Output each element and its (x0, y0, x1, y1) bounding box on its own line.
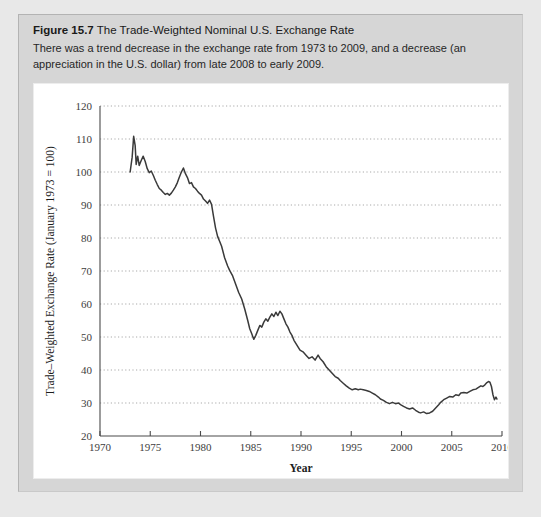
x-tick-1980: 1980 (190, 441, 213, 453)
y-tick-70: 70 (81, 265, 93, 277)
y-tick-110: 110 (76, 133, 93, 145)
y-tick-20: 20 (81, 430, 93, 442)
tick-marks (100, 431, 502, 436)
axes (100, 106, 502, 436)
x-tick-labels: 197019751980198519901995200020052010 (89, 441, 508, 453)
x-tick-1990: 1990 (290, 441, 313, 453)
y-tick-60: 60 (81, 298, 93, 310)
x-tick-1970: 1970 (89, 441, 112, 453)
y-tick-100: 100 (76, 166, 93, 178)
gridlines (100, 106, 502, 403)
y-tick-50: 50 (81, 331, 93, 343)
figure-caption-block: Figure 15.7 The Trade-Weighted Nominal U… (33, 23, 509, 72)
y-axis-title: Trade–Weighted Exchange Rate (January 19… (44, 146, 57, 396)
figure-title-line: Figure 15.7 The Trade-Weighted Nominal U… (33, 23, 509, 38)
data-series (130, 136, 497, 413)
x-tick-2005: 2005 (441, 441, 464, 453)
line-chart: 197019751980198519901995200020052010 203… (34, 84, 508, 478)
x-tick-1995: 1995 (340, 441, 363, 453)
x-tick-2010: 2010 (491, 441, 508, 453)
x-tick-1985: 1985 (240, 441, 263, 453)
y-tick-labels: 2030405060708090100110120 (76, 100, 93, 442)
figure-card: Figure 15.7 The Trade-Weighted Nominal U… (18, 14, 523, 492)
figure-description: There was a trend decrease in the exchan… (33, 41, 503, 72)
x-tick-1975: 1975 (139, 441, 162, 453)
y-tick-90: 90 (81, 199, 93, 211)
y-tick-30: 30 (81, 397, 93, 409)
x-tick-2000: 2000 (391, 441, 414, 453)
x-axis-title: Year (290, 462, 313, 474)
y-tick-120: 120 (76, 100, 93, 112)
y-tick-80: 80 (81, 232, 93, 244)
figure-label: Figure 15.7 (33, 24, 94, 36)
figure-title: The Trade-Weighted Nominal U.S. Exchange… (97, 24, 354, 36)
chart-panel: 197019751980198519901995200020052010 203… (33, 83, 509, 479)
series-line (130, 136, 497, 413)
y-tick-40: 40 (81, 364, 93, 376)
